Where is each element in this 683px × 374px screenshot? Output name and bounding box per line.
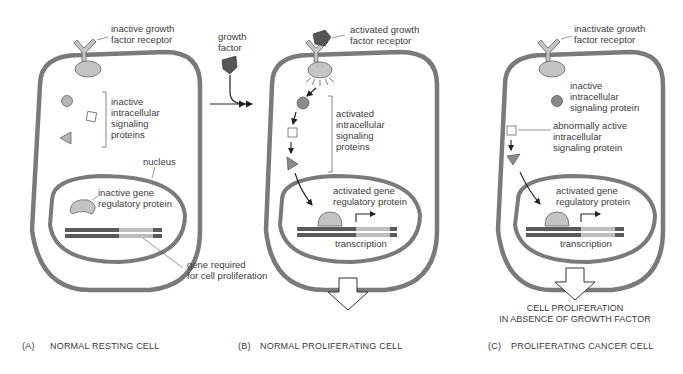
inactive-receptor-icon: [538, 39, 565, 77]
panel-b-cell: [266, 30, 437, 310]
caption-b-letter: (B): [238, 341, 251, 351]
label-c-abnormal-signal: abnormally active intracellular signalin…: [553, 120, 627, 153]
label-b-receptor: activated growth factor receptor: [350, 24, 419, 46]
label-a-signaling: inactive intracellular signaling protein…: [111, 96, 160, 140]
activated-triangle-protein-icon: [287, 157, 298, 170]
label-a-gene: gene required for cell proliferation: [187, 259, 267, 281]
caption-a-letter: (A): [22, 341, 35, 351]
label-c-transcription: transcription: [560, 238, 612, 249]
label-growth-factor: growth factor: [218, 31, 247, 53]
outcome-arrow-icon: [328, 278, 368, 310]
label-b-signaling: activated intracellular signaling protei…: [336, 108, 385, 152]
activated-gene-regulatory-protein-icon: [545, 212, 569, 226]
label-c-inactive-signal: inactive intracellular signaling protein: [570, 80, 639, 113]
bound-growth-factor-icon: [313, 30, 331, 46]
label-c-outcome: CELL PROLIFERATION IN ABSENCE OF GROWTH …: [490, 303, 660, 325]
activated-gene-regulatory-protein-icon: [318, 212, 342, 226]
caption-c-letter: (C): [488, 341, 501, 351]
label-c-gene-reg: activated gene regulatory protein: [556, 185, 630, 207]
caption-c: PROLIFERATING CANCER CELL: [511, 341, 653, 351]
growth-factor-icon: [222, 56, 237, 74]
gene-regulatory-protein-icon: [70, 200, 95, 214]
dna-icon: [297, 227, 397, 237]
triangle-protein-icon: [60, 132, 71, 144]
abnormal-square-protein-icon: [507, 126, 516, 135]
activated-triangle-protein-icon: [507, 154, 520, 165]
label-c-receptor: inactivate growth factor receptor: [574, 23, 645, 45]
label-b-gene-reg: activated gene regulatory protein: [333, 185, 407, 207]
label-a-nucleus: nucleus: [143, 156, 176, 167]
caption-b: NORMAL PROLIFERATING CELL: [260, 341, 403, 351]
label-b-transcription: transcription: [335, 238, 387, 249]
square-protein-icon: [86, 111, 96, 121]
inactive-circle-protein-icon: [552, 96, 563, 107]
activated-square-protein-icon: [288, 128, 297, 137]
caption-a: NORMAL RESTING CELL: [50, 341, 160, 351]
label-a-gene-reg: inactive gene regulatory protein: [98, 187, 172, 209]
growth-factor-arrow: [210, 56, 252, 104]
label-a-receptor: inactive growth factor receptor: [111, 23, 174, 45]
dna-icon: [526, 227, 624, 237]
panel-c-cell: [498, 36, 663, 300]
inactive-receptor-icon: [74, 39, 101, 77]
outcome-arrow-icon: [555, 268, 595, 300]
dna-icon: [65, 228, 162, 238]
activated-circle-protein-icon: [297, 97, 309, 109]
circle-protein-icon: [62, 96, 73, 107]
